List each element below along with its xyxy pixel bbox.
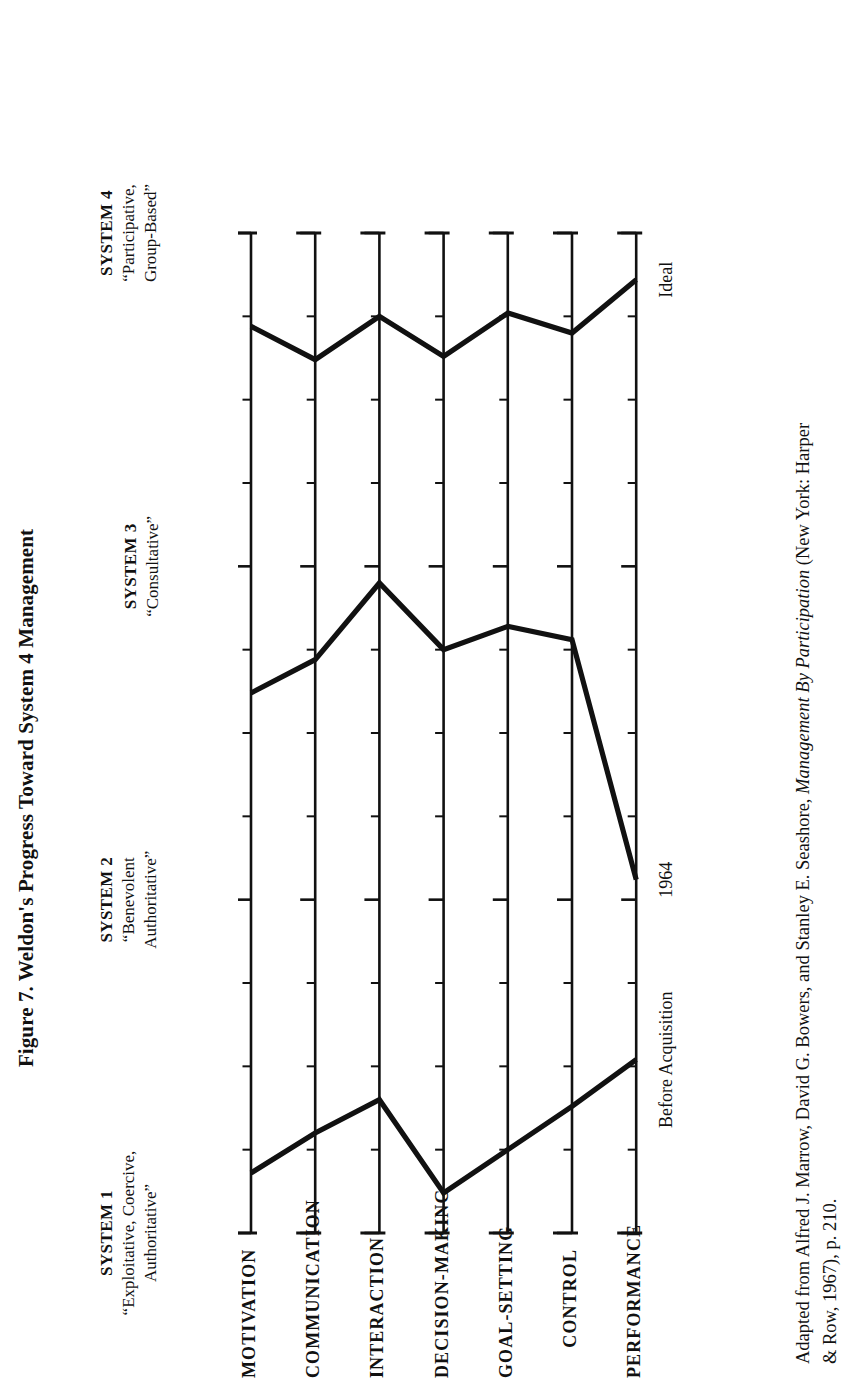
series-endpoint-label-1964: 1964 [656,862,677,898]
row-label-performance: PERFORMANCE [624,1249,645,1378]
series-endpoint-label-ideal: Ideal [656,262,677,298]
system-heading-3: SYSTEM 3“Consultative” [120,436,164,696]
figure-canvas: Figure 7. Weldon's Progress Toward Syste… [0,0,855,1378]
system-heading-name-1: SYSTEM 1 [96,1103,118,1363]
source-note-book-title: Management By Participation [793,570,813,794]
row-label-decision-making: DECISION-MAKING [432,1249,453,1378]
row-label-interaction: INTERACTION [367,1249,388,1378]
profile-chart-svg [238,0,658,1378]
source-note-tail: (New York: Harper [793,423,813,570]
system-heading-descriptor-4: “Participative, Group-Based” [118,103,162,363]
source-note-line-1: Adapted from Alfred J. Marrow, David G. … [790,14,817,1364]
source-note: Adapted from Alfred J. Marrow, David G. … [790,14,844,1364]
system-heading-descriptor-3: “Consultative” [142,436,164,696]
system-heading-name-3: SYSTEM 3 [120,436,142,696]
system-heading-name-4: SYSTEM 4 [96,103,118,363]
row-label-motivation: MOTIVATION [239,1249,260,1378]
system-heading-4: SYSTEM 4“Participative, Group-Based” [96,103,162,363]
figure-title: Figure 7. Weldon's Progress Toward Syste… [14,218,39,1378]
row-label-control: CONTROL [560,1249,581,1378]
plot-area: MOTIVATIONCOMMUNICATIONINTERACTIONDECISI… [238,0,658,1378]
source-note-line-2: & Row, 1967), p. 210. [817,14,844,1364]
system-heading-name-2: SYSTEM 2 [96,770,118,1030]
source-note-lead: Adapted from Alfred J. Marrow, David G. … [793,794,813,1364]
row-label-communication: COMMUNICATION [303,1249,324,1378]
axes-group [238,233,642,1233]
series-endpoint-label-before-acquisition: Before Acquisition [656,991,677,1127]
row-label-goal-setting: GOAL-SETTING [496,1249,517,1378]
system-heading-1: SYSTEM 1“Exploitative, Coercive, Authori… [96,1103,162,1363]
system-heading-2: SYSTEM 2“Benevolent Authoritative” [96,770,162,1030]
system-heading-descriptor-1: “Exploitative, Coercive, Authoritative” [118,1103,162,1363]
system-heading-descriptor-2: “Benevolent Authoritative” [118,770,162,1030]
